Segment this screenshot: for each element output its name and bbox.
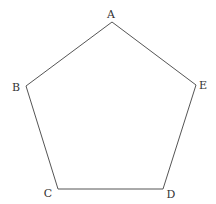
pentagon-shape bbox=[26, 22, 196, 189]
vertex-label-a: A bbox=[106, 8, 116, 21]
vertex-label-c: C bbox=[44, 187, 52, 200]
vertex-label-e: E bbox=[199, 79, 207, 92]
vertex-label-b: B bbox=[12, 81, 20, 94]
pentagon-diagram: A B C D E bbox=[0, 0, 216, 204]
vertex-label-d: D bbox=[167, 188, 176, 201]
